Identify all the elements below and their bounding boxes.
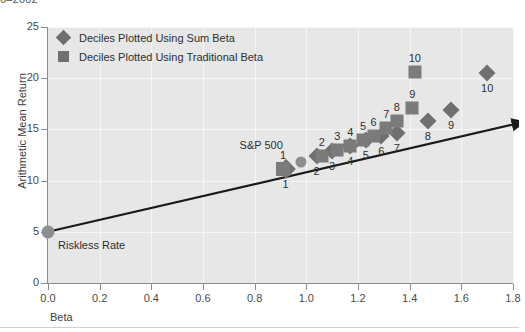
legend-label-traditional-beta: Deciles Plotted Using Traditional Beta: [79, 51, 263, 63]
x-tick-mark: [410, 284, 411, 290]
y-tick-mark: [41, 129, 48, 130]
x-tick-mark: [203, 284, 204, 290]
x-tick-mark: [255, 284, 256, 290]
legend-entry-sum-beta: Deciles Plotted Using Sum Beta: [57, 28, 272, 47]
traditional-beta-point-label-2: 2: [319, 136, 325, 148]
x-tick-mark: [461, 284, 462, 290]
sum-beta-point-label-2: 2: [314, 165, 320, 177]
x-tick-label: 0.8: [235, 292, 275, 304]
x-tick-mark: [151, 284, 152, 290]
chart-legend: Deciles Plotted Using Sum Beta Deciles P…: [57, 28, 272, 66]
traditional-beta-point-6: [367, 129, 380, 142]
sum-beta-point-label-3: 3: [329, 160, 335, 172]
y-tick-mark: [41, 78, 48, 79]
gridline-vertical: [513, 27, 514, 283]
x-tick-mark: [306, 284, 307, 290]
traditional-beta-point-label-8: 8: [394, 101, 400, 113]
sum-beta-point-label-5: 5: [363, 149, 369, 161]
y-tick-label: 5: [33, 225, 39, 237]
traditional-beta-point-label-5: 5: [360, 120, 366, 132]
traditional-beta-point-2: [315, 150, 328, 163]
y-tick-label: 10: [27, 174, 39, 186]
y-axis-line: [47, 27, 48, 284]
sum-beta-point-label-10: 10: [481, 82, 493, 94]
chart-title-clipped: 6–2002: [0, 0, 38, 5]
traditional-beta-point-label-10: 10: [409, 52, 421, 64]
y-tick-label: 25: [27, 20, 39, 32]
x-tick-label: 1.8: [493, 292, 525, 304]
sum-beta-point-label-4: 4: [347, 155, 353, 167]
legend-label-sum-beta: Deciles Plotted Using Sum Beta: [79, 32, 235, 44]
traditional-beta-point-9: [406, 101, 419, 114]
traditional-beta-point-label-7: 7: [383, 108, 389, 120]
x-tick-label: 1.4: [390, 292, 430, 304]
sp500-annotation: S&P 500: [240, 139, 283, 151]
gridline-horizontal: [48, 129, 513, 130]
y-tick-label: 20: [27, 71, 39, 83]
x-tick-label: 0.2: [80, 292, 120, 304]
gridline-vertical: [306, 27, 307, 283]
sp500-point: [296, 157, 307, 168]
sum-beta-point-label-6: 6: [378, 145, 384, 157]
x-axis-line: [47, 283, 513, 284]
sum-beta-point-label-7: 7: [394, 142, 400, 154]
x-tick-label: 1.2: [338, 292, 378, 304]
x-tick-label: 0.0: [28, 292, 68, 304]
x-tick-mark: [48, 284, 49, 290]
footer-divider: [0, 327, 519, 328]
traditional-beta-point-10: [408, 66, 421, 79]
traditional-beta-point-4: [344, 139, 357, 152]
x-tick-mark: [358, 284, 359, 290]
x-axis-label: Beta: [50, 311, 73, 323]
y-tick-mark: [41, 27, 48, 28]
traditional-beta-point-8: [390, 115, 403, 128]
x-tick-label: 0.4: [131, 292, 171, 304]
square-marker-icon: [57, 50, 70, 63]
traditional-beta-point-label-3: 3: [334, 130, 340, 142]
gridline-vertical: [358, 27, 359, 283]
sum-beta-point-label-9: 9: [448, 119, 454, 131]
riskless-rate-annotation: Riskless Rate: [58, 239, 125, 251]
sum-beta-point-label-8: 8: [425, 130, 431, 142]
x-tick-mark: [100, 284, 101, 290]
gridline-vertical: [461, 27, 462, 283]
riskless-rate-point: [42, 225, 55, 238]
traditional-beta-point-1: [276, 162, 290, 176]
x-tick-label: 1.6: [441, 292, 481, 304]
y-tick-label: 15: [27, 122, 39, 134]
diamond-marker-icon: [57, 31, 70, 44]
traditional-beta-point-label-4: 4: [347, 126, 353, 138]
legend-entry-traditional-beta: Deciles Plotted Using Traditional Beta: [57, 47, 272, 66]
x-tick-mark: [513, 284, 514, 290]
traditional-beta-point-label-6: 6: [370, 116, 376, 128]
y-tick-mark: [41, 283, 48, 284]
traditional-beta-point-label-1: 1: [280, 149, 286, 161]
y-tick-label: 0: [33, 276, 39, 288]
gridline-horizontal: [48, 181, 513, 182]
y-tick-mark: [41, 181, 48, 182]
gridline-horizontal: [48, 232, 513, 233]
x-tick-label: 1.0: [286, 292, 326, 304]
gridline-horizontal: [48, 78, 513, 79]
sum-beta-point-label-1: 1: [283, 178, 289, 190]
x-tick-label: 0.6: [183, 292, 223, 304]
traditional-beta-point-3: [331, 143, 344, 156]
traditional-beta-point-label-9: 9: [409, 88, 415, 100]
